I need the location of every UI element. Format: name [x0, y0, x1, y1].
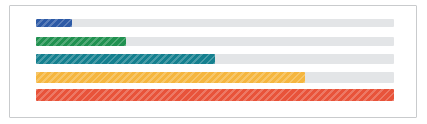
- progress-bar-list: [36, 14, 394, 104]
- progress-track: [36, 72, 394, 83]
- progress-fill-green[interactable]: [36, 37, 126, 46]
- progress-fill-blue[interactable]: [36, 19, 72, 27]
- progress-bar-row: [36, 50, 394, 68]
- progress-track: [36, 54, 394, 64]
- progress-fill-red[interactable]: [36, 89, 394, 101]
- progress-bars-card: [9, 5, 417, 118]
- progress-track: [36, 37, 394, 46]
- progress-bar-row: [36, 68, 394, 86]
- progress-track: [36, 89, 394, 101]
- progress-track: [36, 19, 394, 27]
- progress-bar-row: [36, 86, 394, 104]
- progress-fill-amber[interactable]: [36, 72, 305, 83]
- progress-bar-row: [36, 14, 394, 32]
- progress-bar-row: [36, 32, 394, 50]
- progress-fill-teal[interactable]: [36, 54, 215, 64]
- screenshot-root: [0, 0, 427, 124]
